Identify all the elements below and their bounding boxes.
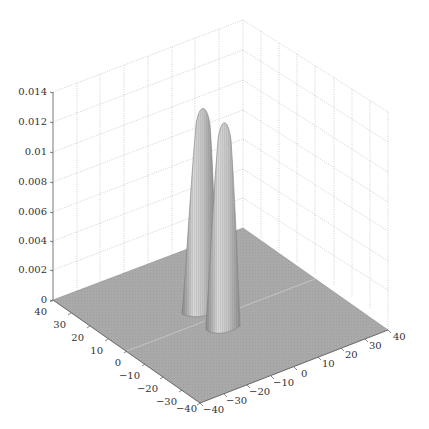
y-tick-label: −10 (119, 370, 140, 381)
y-tick-label: −20 (137, 383, 158, 394)
z-tick-label: 0.002 (18, 264, 47, 275)
z-tick-label: 0.008 (18, 176, 47, 187)
x-tick-label: −10 (273, 377, 294, 388)
y-tick-label: −40 (176, 403, 197, 414)
x-tick-label: −20 (249, 386, 270, 397)
z-tick-label: 0 (41, 294, 47, 305)
z-tick-label: 0.01 (25, 146, 47, 157)
x-tick-label: 0 (301, 368, 307, 379)
y-tick-label: −30 (156, 396, 177, 407)
x-tick-label: 20 (345, 349, 358, 360)
y-tick-label: 30 (53, 319, 66, 330)
x-tick-label: 10 (322, 358, 335, 369)
z-tick-label: 0.004 (18, 235, 47, 246)
x-tick-label: −30 (226, 395, 247, 406)
x-tick-label: 30 (369, 340, 382, 351)
x-tick-label: −40 (203, 404, 224, 415)
surface-plot: 0.014 0.012 0.01 0.008 0.006 0.004 0.002… (0, 0, 429, 429)
y-tick-label: 0 (115, 357, 121, 368)
y-tick-label: 20 (71, 332, 84, 343)
z-axis (50, 92, 53, 301)
y-tick-label: 40 (34, 306, 47, 317)
y-tick-label: 10 (90, 345, 103, 356)
z-axis-labels: 0.014 0.012 0.01 0.008 0.006 0.004 0.002… (18, 86, 47, 305)
z-tick-label: 0.006 (18, 206, 47, 217)
z-tick-label: 0.014 (18, 86, 47, 97)
x-tick-label: 40 (393, 331, 406, 342)
z-tick-label: 0.012 (18, 116, 47, 127)
